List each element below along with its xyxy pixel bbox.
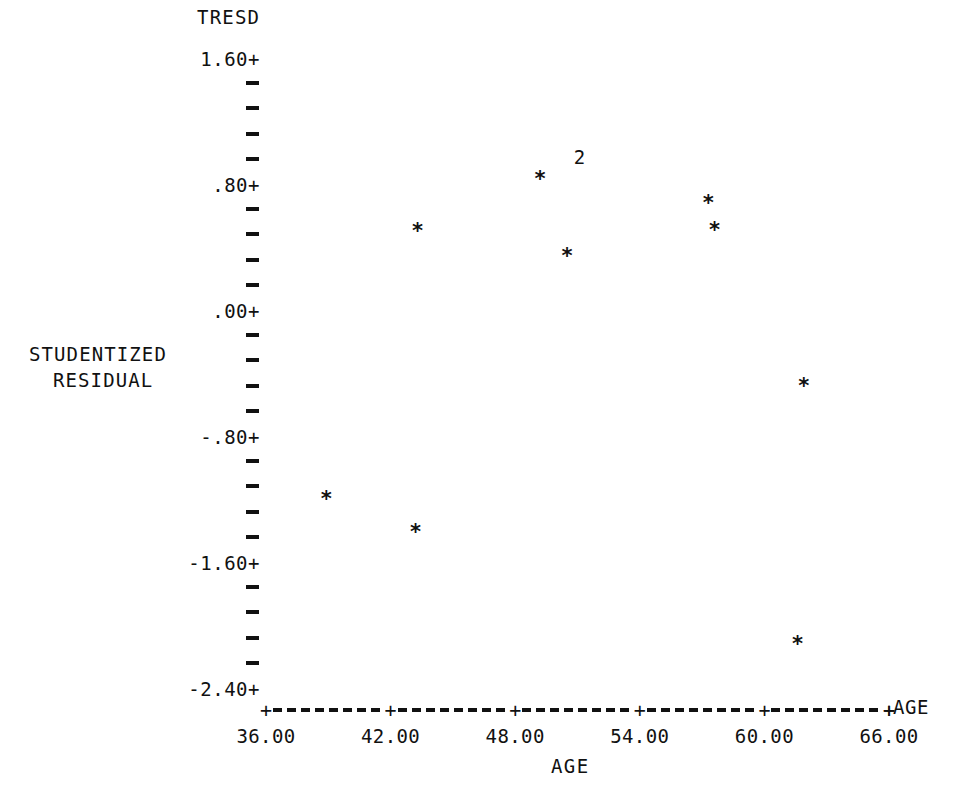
scatter-plot-figure: TRESD STUDENTIZED RESIDUAL 1.60+.80+.00+… <box>0 0 960 796</box>
x-axis-major-tick: + <box>758 700 770 720</box>
y-axis-tick-dash <box>246 283 259 287</box>
x-axis-major-tick: + <box>260 700 272 720</box>
y-axis-tick-label: -2.40+ <box>188 678 260 700</box>
x-axis-tick-label: 54.00 <box>610 727 669 746</box>
x-axis-dash-segment <box>771 708 883 712</box>
y-axis-tick-dash <box>246 258 259 262</box>
plot-title: TRESD <box>197 8 260 27</box>
y-axis-tick-dash <box>246 585 259 589</box>
y-axis-label-line-2: RESIDUAL <box>53 371 153 390</box>
x-axis-major-tick: + <box>634 700 646 720</box>
y-axis-tick-dash <box>246 384 259 388</box>
y-axis-tick-label: -1.60+ <box>188 552 260 574</box>
x-axis-tick-label: 66.00 <box>859 727 918 746</box>
data-point: * <box>702 192 715 213</box>
data-point: * <box>534 169 547 190</box>
data-point: * <box>411 221 424 242</box>
data-point: * <box>708 219 721 240</box>
x-axis-dash-segment <box>398 708 510 712</box>
x-axis-major-tick: + <box>509 700 521 720</box>
data-point: * <box>409 522 422 543</box>
y-axis-tick-dash <box>246 132 259 136</box>
x-axis-tick-label: 42.00 <box>361 727 420 746</box>
x-axis-tick-label: 36.00 <box>236 727 295 746</box>
x-axis-line: +++++++ <box>259 700 897 718</box>
y-axis-tick-label: .00+ <box>212 300 260 322</box>
y-axis-tick-dash <box>246 535 259 539</box>
y-axis-tick-dash <box>246 510 259 514</box>
data-point: * <box>561 246 574 267</box>
y-axis-tick-dash <box>246 636 259 640</box>
x-axis-end-label: AGE <box>893 698 929 717</box>
y-axis-label-line-1: STUDENTIZED <box>29 345 167 364</box>
y-axis-tick-dash <box>246 333 259 337</box>
x-axis-major-tick: + <box>385 700 397 720</box>
y-axis-tick-dash <box>246 232 259 236</box>
x-axis-label: AGE <box>551 757 590 776</box>
x-axis-dash-segment <box>647 708 759 712</box>
y-axis-tick-label: -.80+ <box>200 426 260 448</box>
y-axis-tick-label: .80+ <box>212 174 260 196</box>
y-axis-tick-dash <box>246 207 259 211</box>
data-point: * <box>791 633 804 654</box>
y-axis-tick-dash <box>246 157 259 161</box>
y-axis-tick-dash <box>246 459 259 463</box>
y-axis-tick-dash <box>246 358 259 362</box>
y-axis-tick-dash <box>246 81 259 85</box>
x-axis-dash-segment <box>273 708 385 712</box>
y-axis-tick-dash <box>246 610 259 614</box>
x-axis-tick-label: 48.00 <box>486 727 545 746</box>
x-axis-dash-segment <box>522 708 634 712</box>
data-point: * <box>798 375 811 396</box>
y-axis-tick-dash <box>246 106 259 110</box>
y-axis-tick-dash <box>246 484 259 488</box>
overlapping-points-count: 2 <box>574 148 585 167</box>
y-axis-tick-label: 1.60+ <box>200 48 260 70</box>
data-point: * <box>320 489 333 510</box>
y-axis-tick-dash <box>246 661 259 665</box>
y-axis-tick-dash <box>246 409 259 413</box>
x-axis-tick-label: 60.00 <box>735 727 794 746</box>
